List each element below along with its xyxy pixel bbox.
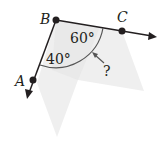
arrowhead-a-icon [25, 89, 33, 99]
label-a: A [13, 73, 25, 89]
angle-upper-label: 60° [70, 30, 95, 46]
angle-lower-label: 40° [46, 51, 71, 67]
arrowhead-c-icon [148, 32, 157, 40]
point-b [53, 17, 60, 24]
point-c [119, 28, 126, 35]
angle-diagram: B C A 60° 40° ? [0, 0, 160, 143]
label-c: C [117, 9, 128, 25]
point-a [30, 77, 37, 84]
unknown-angle-label: ? [103, 63, 111, 79]
label-b: B [39, 11, 50, 27]
